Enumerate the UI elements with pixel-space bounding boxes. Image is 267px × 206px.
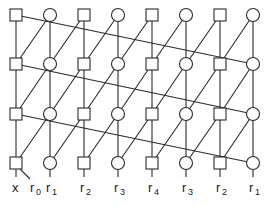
r0-stub (20, 169, 30, 179)
square-node (78, 108, 90, 120)
square-node (10, 108, 22, 120)
square-node (214, 157, 226, 169)
circle-node (112, 157, 125, 170)
circle-node (247, 9, 260, 22)
diagonal-edge (84, 114, 118, 163)
circle-node (180, 58, 193, 71)
circle-node (180, 9, 193, 22)
bottom-label-subscript: 3 (188, 187, 193, 197)
bottom-label-subscript: 0 (36, 187, 41, 197)
bottom-label-subscript: 3 (120, 187, 125, 197)
square-node (78, 157, 90, 169)
square-node (78, 9, 90, 21)
circle-node (44, 108, 57, 121)
square-node (214, 58, 226, 70)
bottom-label: r (216, 180, 221, 195)
bottom-label: r (182, 180, 187, 195)
diagonal-edge (16, 114, 50, 163)
diagonal-edge (50, 15, 84, 64)
circle-node (112, 9, 125, 22)
diagonal-edge (16, 64, 50, 114)
circle-node (112, 58, 125, 71)
diagram-labels: xr0r1r2r3r4r3r2r1 (12, 180, 260, 197)
square-node (146, 58, 158, 70)
square-node (146, 108, 158, 120)
bottom-label-subscript: 2 (86, 187, 91, 197)
bottom-label: r (46, 180, 51, 195)
bottom-label: r (249, 180, 254, 195)
feedback-edge (16, 64, 253, 114)
diagonal-edge (50, 114, 84, 163)
circle-node (44, 9, 57, 22)
diagonal-edge (152, 15, 186, 64)
square-node (10, 9, 22, 21)
square-node (10, 157, 22, 169)
bottom-label-subscript: 1 (255, 187, 260, 197)
feedback-edge (16, 114, 253, 163)
diagonal-edge (50, 64, 84, 114)
bottom-label-subscript: 2 (222, 187, 227, 197)
diagonal-edge (84, 64, 118, 114)
diagonal-edge (152, 114, 186, 163)
circle-node (247, 108, 260, 121)
circle-node (112, 108, 125, 121)
square-node (146, 157, 158, 169)
diagonal-edge (220, 114, 253, 163)
bottom-label: r (30, 180, 35, 195)
diagonal-edge (84, 15, 118, 64)
square-node (214, 108, 226, 120)
square-node (10, 58, 22, 70)
square-node (146, 9, 158, 21)
lattice-diagram: xr0r1r2r3r4r3r2r1 (0, 0, 267, 206)
diagonal-edge (152, 64, 186, 114)
circle-node (180, 157, 193, 170)
feedback-edge (16, 15, 253, 64)
circle-node (247, 157, 260, 170)
diagonal-edge (220, 15, 253, 64)
circle-node (44, 157, 57, 170)
bottom-label: x (12, 180, 19, 195)
bottom-label: r (80, 180, 85, 195)
bottom-label-subscript: 1 (52, 187, 57, 197)
bottom-label: r (148, 180, 153, 195)
diagonal-edge (220, 64, 253, 114)
bottom-label-subscript: 4 (154, 187, 159, 197)
square-node (78, 58, 90, 70)
diagram-edges (16, 15, 253, 179)
circle-node (44, 58, 57, 71)
circle-node (247, 58, 260, 71)
circle-node (180, 108, 193, 121)
square-node (214, 9, 226, 21)
bottom-label: r (114, 180, 119, 195)
diagonal-edge (16, 15, 50, 64)
